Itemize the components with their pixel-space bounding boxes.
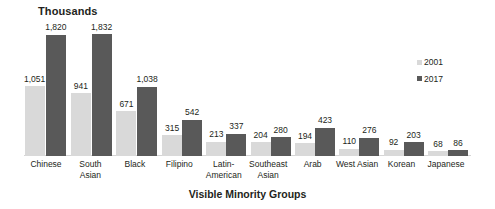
bar[interactable] xyxy=(92,34,112,156)
bar[interactable] xyxy=(404,142,424,156)
bar-item[interactable]: 280 xyxy=(271,20,291,156)
x-axis-label: Latin- American xyxy=(202,159,246,180)
bar-item[interactable]: 110 xyxy=(339,20,359,156)
bar-group: 1,0511,820 xyxy=(24,20,67,156)
bar-value-label: 1,038 xyxy=(136,75,157,84)
bar-groups: 1,0511,8209411,8326711,03831554221333720… xyxy=(24,20,468,156)
x-axis-label: Japanese xyxy=(424,159,468,180)
bar-value-label: 194 xyxy=(298,132,312,141)
bar-item[interactable]: 86 xyxy=(448,20,468,156)
bar-value-label: 1,820 xyxy=(45,23,66,32)
bar-value-label: 86 xyxy=(453,139,462,148)
bar-item[interactable]: 542 xyxy=(182,20,202,156)
x-axis-label: Korean xyxy=(380,159,424,180)
bar-item[interactable]: 941 xyxy=(71,20,91,156)
x-axis-title: Visible Minority Groups xyxy=(0,188,495,200)
bar-item[interactable]: 671 xyxy=(116,20,136,156)
bar-value-label: 110 xyxy=(343,137,357,146)
x-axis-label: Chinese xyxy=(24,159,68,180)
plot-area: 1,0511,8209411,8326711,03831554221333720… xyxy=(24,20,468,156)
bar-value-label: 315 xyxy=(165,124,179,133)
bar[interactable] xyxy=(359,138,379,156)
bar-group: 315542 xyxy=(162,20,202,156)
bar-item[interactable]: 203 xyxy=(404,20,424,156)
bar-item[interactable]: 204 xyxy=(251,20,271,156)
bar-item[interactable]: 194 xyxy=(295,20,315,156)
x-axis-label: Arab xyxy=(291,159,335,180)
bar-item[interactable]: 68 xyxy=(428,20,448,156)
bar[interactable] xyxy=(206,142,226,156)
bar-group: 194423 xyxy=(295,20,335,156)
bar-group: 204280 xyxy=(251,20,291,156)
bar-value-label: 203 xyxy=(407,131,421,140)
bar-group: 110276 xyxy=(339,20,379,156)
bar-value-label: 1,051 xyxy=(24,75,45,84)
bar-value-label: 337 xyxy=(229,122,243,131)
bar-value-label: 1,832 xyxy=(91,23,112,32)
bar[interactable] xyxy=(162,135,182,156)
bar[interactable] xyxy=(46,35,66,156)
bar-item[interactable]: 315 xyxy=(162,20,182,156)
bar[interactable] xyxy=(271,137,291,156)
bar-item[interactable]: 1,832 xyxy=(91,20,112,156)
x-axis-label: Black xyxy=(113,159,157,180)
bar-item[interactable]: 1,038 xyxy=(136,20,157,156)
bar-value-label: 280 xyxy=(274,126,288,135)
bar-value-label: 92 xyxy=(389,138,398,147)
bar[interactable] xyxy=(226,134,246,156)
bar[interactable] xyxy=(137,87,157,156)
bar-group: 6711,038 xyxy=(116,20,157,156)
bar-value-label: 276 xyxy=(362,126,376,135)
bar[interactable] xyxy=(182,120,202,156)
bar-item[interactable]: 1,820 xyxy=(45,20,66,156)
x-axis-label: West Asian xyxy=(335,159,379,180)
bar-item[interactable]: 276 xyxy=(359,20,379,156)
x-axis-label: Southeast Asian xyxy=(246,159,290,180)
bar-item[interactable]: 1,051 xyxy=(24,20,45,156)
bar-item[interactable]: 423 xyxy=(315,20,335,156)
bar-value-label: 204 xyxy=(254,131,268,140)
bar-group: 92203 xyxy=(384,20,424,156)
bar-value-label: 941 xyxy=(74,82,88,91)
bar-item[interactable]: 337 xyxy=(226,20,246,156)
bar[interactable] xyxy=(251,142,271,156)
bar-group: 213337 xyxy=(206,20,246,156)
bar[interactable] xyxy=(384,150,404,156)
bar-value-label: 671 xyxy=(119,100,133,109)
bar-item[interactable]: 213 xyxy=(206,20,226,156)
bar-value-label: 213 xyxy=(209,130,223,139)
bar-value-label: 423 xyxy=(318,116,332,125)
bar-chart: Thousands 20012017 1,0511,8209411,832671… xyxy=(0,0,495,209)
x-axis-labels: ChineseSouth AsianBlackFilipinoLatin- Am… xyxy=(24,159,468,180)
bar-value-label: 68 xyxy=(433,140,442,149)
bar[interactable] xyxy=(448,150,468,156)
bar[interactable] xyxy=(339,149,359,156)
bar[interactable] xyxy=(428,151,448,156)
x-axis-label: Filipino xyxy=(157,159,201,180)
bar[interactable] xyxy=(71,93,91,156)
bar[interactable] xyxy=(315,128,335,156)
bar-group: 6886 xyxy=(428,20,468,156)
bar-value-label: 542 xyxy=(185,108,199,117)
bar[interactable] xyxy=(295,143,315,156)
x-axis-label: South Asian xyxy=(68,159,112,180)
chart-title: Thousands xyxy=(38,5,98,17)
bar-group: 9411,832 xyxy=(71,20,112,156)
bar[interactable] xyxy=(25,86,45,156)
bar[interactable] xyxy=(116,111,136,156)
bar-item[interactable]: 92 xyxy=(384,20,404,156)
